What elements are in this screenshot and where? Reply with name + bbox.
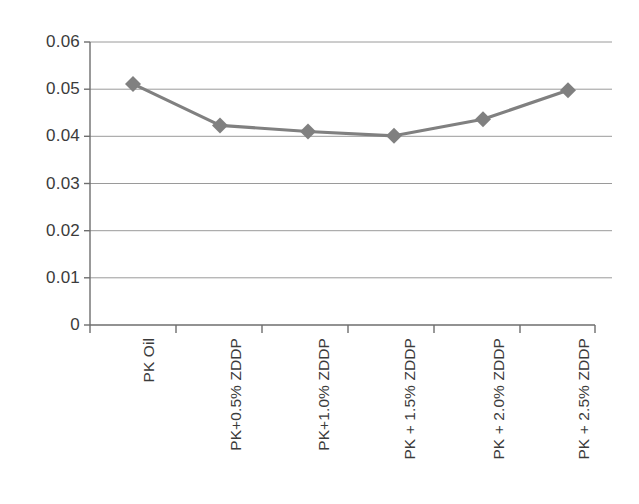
data-series (125, 76, 576, 144)
y-tick-label-0.05: 0.05 (0, 80, 80, 97)
x-tick-label-pk-2-5-zddp: PK + 2.5% ZDDP (576, 338, 592, 488)
x-tick-text: PK Oil (141, 338, 157, 488)
data-point-marker (300, 124, 316, 140)
x-tick-label-pk-2-0-zddp: PK + 2.0% ZDDP (491, 338, 507, 488)
x-tick-text: PK + 2.5% ZDDP (576, 338, 592, 488)
y-tick-label-0.04: 0.04 (0, 127, 80, 144)
y-tick-label-0.02: 0.02 (0, 222, 80, 239)
x-tick-text: PK + 2.0% ZDDP (491, 338, 507, 488)
x-tick-label-pk-1-5-zddp: PK + 1.5% ZDDP (402, 338, 418, 488)
y-tick-label-0.03: 0.03 (0, 175, 80, 192)
data-point-marker (212, 117, 228, 133)
line-chart: 0.06 0.05 0.04 0.03 0.02 0.01 0 PK Oil P… (0, 0, 639, 504)
x-tick-label-pk-0-5-zddp: PK+0.5% ZDDP (228, 338, 244, 488)
y-tick-label-0.06: 0.06 (0, 33, 80, 50)
data-point-marker (560, 82, 576, 98)
x-tick-text: PK+1.0% ZDDP (316, 338, 332, 488)
y-tick-label-0: 0 (0, 316, 80, 333)
data-point-marker (475, 111, 491, 127)
x-tick-text: PK+0.5% ZDDP (228, 338, 244, 488)
x-tick-label-pk-1-0-zddp: PK+1.0% ZDDP (316, 338, 332, 488)
data-point-marker (386, 128, 402, 144)
x-tick-label-pk-oil: PK Oil (141, 338, 157, 488)
y-tick-label-0.01: 0.01 (0, 269, 80, 286)
y-axis (84, 42, 90, 325)
series-line (133, 84, 568, 136)
x-axis (90, 325, 595, 333)
x-tick-text: PK + 1.5% ZDDP (402, 338, 418, 488)
gridlines (90, 42, 612, 278)
